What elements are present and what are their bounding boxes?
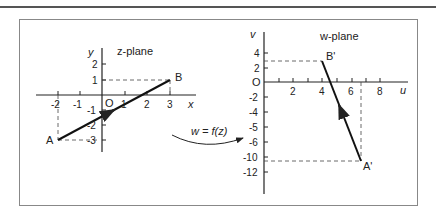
w-v-tick-label: -2 [249, 92, 258, 103]
w-u-tick-label: 6 [348, 86, 354, 97]
z-x-tick-label: 1 [121, 99, 127, 110]
w-direction-arrow [339, 105, 343, 115]
z-y-tick-label: -3 [87, 135, 96, 146]
z-point-b-label: B [175, 71, 182, 83]
z-x-tick-label: 2 [144, 99, 150, 110]
z-y-tick-label: -2 [87, 120, 96, 131]
w-u-tick-label: 2 [290, 86, 296, 97]
mapping-diagram: y z-plane x O -2 -1 1 2 3 2 1 -1 -2 -3 A… [0, 0, 436, 218]
w-v-tick-label: -4 [249, 107, 258, 118]
w-v-tick-label: -12 [243, 167, 258, 178]
w-v-tick-label: -5 [249, 122, 258, 133]
z-y-tick-label: -1 [87, 105, 96, 116]
mapping-label: w = f(z) [191, 125, 228, 137]
z-plane-title: z-plane [117, 45, 153, 57]
z-direction-arrow [104, 110, 114, 115]
w-v-tick-label: 4 [254, 48, 260, 59]
w-point-b-label: B' [326, 50, 335, 62]
w-u-tick-label: 8 [377, 86, 383, 97]
w-u-axis-label: u [400, 84, 406, 96]
mapping-arrow: w = f(z) [172, 125, 243, 144]
z-y-tick-label: 1 [92, 75, 98, 86]
z-point-a-label: A [46, 134, 54, 146]
z-origin-label: O [105, 97, 114, 109]
z-plane: y z-plane x O -2 -1 1 2 3 2 1 -1 -2 -3 A… [36, 45, 196, 152]
z-y-axis-label: y [87, 46, 95, 58]
w-v-tick-label: -10 [243, 152, 258, 163]
w-v-axis-label: v [250, 28, 257, 40]
z-x-tick-label: -1 [73, 99, 82, 110]
w-dashed-guides [264, 61, 361, 161]
w-point-a-label: A' [363, 160, 372, 172]
w-plane-title: w-plane [319, 30, 359, 42]
w-u-tick-label: 4 [319, 86, 325, 97]
w-origin-label: O [252, 76, 261, 88]
z-x-axis-label: x [187, 98, 194, 110]
w-v-tick-label: -6 [249, 137, 258, 148]
z-x-tick-label: 3 [167, 99, 173, 110]
w-v-tick-label: 2 [254, 63, 260, 74]
z-y-tick-label: 2 [92, 59, 98, 70]
w-plane: v w-plane u O 2 4 6 8 4 2 -2 -4 -5 -6 -1… [243, 28, 408, 194]
z-x-tick-label: -2 [51, 99, 60, 110]
